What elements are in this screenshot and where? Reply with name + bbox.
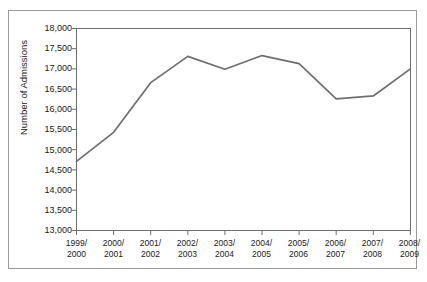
x-tick-line-2: 2008 <box>353 249 392 260</box>
x-tick-2006-2007: 2006/ 2007 <box>316 238 355 260</box>
plot-frame <box>77 29 411 231</box>
x-tick-line-1: 2004/ <box>242 238 281 249</box>
x-tick-2008-2009: 2008/ 2009 <box>390 238 427 260</box>
x-tick-2004-2005: 2004/ 2005 <box>242 238 281 260</box>
chart-plot-container: Number of Admissions 18,000 17,500 17,00… <box>0 0 427 282</box>
y-axis-ticks <box>72 29 77 231</box>
x-axis-ticks <box>77 231 411 236</box>
y-tick-15500: 15,500 <box>28 125 72 134</box>
y-tick-14500: 14,500 <box>28 166 72 175</box>
y-tick-14000: 14,000 <box>28 186 72 195</box>
x-tick-line-1: 2008/ <box>390 238 427 249</box>
y-tick-15000: 15,000 <box>28 146 72 155</box>
x-tick-line-1: 2005/ <box>279 238 318 249</box>
x-tick-2003-2004: 2003/ 2004 <box>205 238 244 260</box>
x-tick-line-1: 2003/ <box>205 238 244 249</box>
x-tick-line-2: 2006 <box>279 249 318 260</box>
x-tick-line-2: 2009 <box>390 249 427 260</box>
x-tick-line-2: 2005 <box>242 249 281 260</box>
y-axis-title: Number of Admissions <box>18 18 29 158</box>
y-tick-13500: 13,500 <box>28 206 72 215</box>
y-tick-16000: 16,000 <box>28 105 72 114</box>
x-tick-1999-2000: 1999/ 2000 <box>57 238 96 260</box>
x-tick-line-1: 2002/ <box>168 238 207 249</box>
plot-border <box>77 29 411 231</box>
chart-figure: Number of Admissions 18,000 17,500 17,00… <box>0 0 427 282</box>
y-tick-17000: 17,000 <box>28 64 72 73</box>
x-tick-line-2: 2000 <box>57 249 96 260</box>
x-tick-line-2: 2007 <box>316 249 355 260</box>
y-tick-16500: 16,500 <box>28 85 72 94</box>
y-tick-17500: 17,500 <box>28 44 72 53</box>
y-tick-18000: 18,000 <box>28 24 72 33</box>
x-tick-line-2: 2002 <box>131 249 170 260</box>
x-tick-line-2: 2003 <box>168 249 207 260</box>
x-tick-2001-2002: 2001/ 2002 <box>131 238 170 260</box>
x-tick-line-1: 2001/ <box>131 238 170 249</box>
x-tick-line-1: 2006/ <box>316 238 355 249</box>
x-tick-2000-2001: 2000/ 2001 <box>94 238 133 260</box>
x-tick-line-1: 2007/ <box>353 238 392 249</box>
x-tick-line-2: 2004 <box>205 249 244 260</box>
data-series-line <box>77 56 411 162</box>
x-tick-line-1: 2000/ <box>94 238 133 249</box>
x-tick-line-1: 1999/ <box>57 238 96 249</box>
x-tick-2002-2003: 2002/ 2003 <box>168 238 207 260</box>
y-tick-13000: 13,000 <box>28 226 72 235</box>
x-tick-2005-2006: 2005/ 2006 <box>279 238 318 260</box>
x-tick-2007-2008: 2007/ 2008 <box>353 238 392 260</box>
x-tick-line-2: 2001 <box>94 249 133 260</box>
